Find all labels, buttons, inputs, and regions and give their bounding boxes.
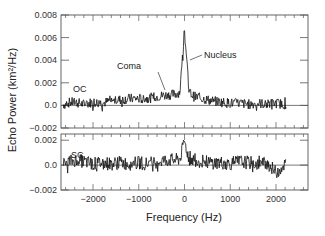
x-tick-label: 0 xyxy=(182,194,187,204)
x-tick-label: 2000 xyxy=(266,194,286,204)
nucleus-leader xyxy=(190,55,202,60)
y-tick-label: 0.004 xyxy=(34,55,57,65)
y-tick-label: 0.006 xyxy=(34,33,57,43)
sc-label: SC xyxy=(71,150,84,160)
y-tick-label: 0.002 xyxy=(34,135,57,145)
x-tick-label: −2000 xyxy=(80,194,105,204)
sc-panel: −0.0020.00.002SC xyxy=(29,134,308,195)
y-tick-label: −0.002 xyxy=(29,185,57,195)
y-tick-label: 0.0 xyxy=(44,100,57,110)
y-axis-title: Echo Power (km²/Hz) xyxy=(6,48,18,153)
x-tick-label: 1000 xyxy=(220,194,240,204)
oc-trace xyxy=(63,31,286,112)
y-tick-label: 0.002 xyxy=(34,78,57,88)
x-axis-title: Frequency (Hz) xyxy=(146,211,222,223)
sc-trace xyxy=(63,140,286,178)
oc-panel: −0.0020.00.0020.0040.0060.008OCComaNucle… xyxy=(29,10,308,133)
coma-annotation: Coma xyxy=(117,61,141,71)
coma-leader xyxy=(158,72,165,90)
y-tick-label: −0.002 xyxy=(29,123,57,133)
y-tick-label: 0.008 xyxy=(34,10,57,20)
y-tick-label: 0.0 xyxy=(44,160,57,170)
nucleus-annotation: Nucleus xyxy=(204,50,237,60)
oc-label: OC xyxy=(73,84,87,94)
x-tick-label: −1000 xyxy=(126,194,151,204)
echo-power-chart: −0.0020.00.0020.0040.0060.008OCComaNucle… xyxy=(0,0,325,236)
x-axis: −2000−1000010002000 xyxy=(80,194,286,204)
